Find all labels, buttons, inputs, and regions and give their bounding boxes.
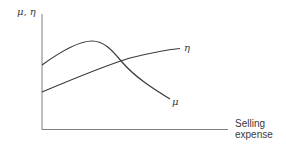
y-axis-label: μ, η	[17, 6, 36, 17]
eta-curve	[42, 49, 180, 93]
mu-curve	[42, 41, 170, 99]
x-axis-label-line2: expense	[235, 129, 273, 140]
x-axis-label-line1: Selling	[235, 118, 265, 129]
eta-curve-label: η	[184, 42, 190, 53]
mu-curve-label: μ	[172, 96, 179, 107]
